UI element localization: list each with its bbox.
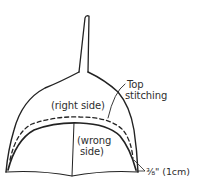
top-stitching-leader xyxy=(108,84,125,118)
wrong-side-label-line2: side) xyxy=(77,146,111,157)
center-seam-line xyxy=(72,123,74,176)
right-side-label: (right side) xyxy=(51,100,105,111)
hood-diagram xyxy=(0,0,202,187)
top-stitching-label: Top stitching xyxy=(125,79,167,101)
top-stitching-label-line2: stitching xyxy=(125,90,167,101)
top-stitching-label-line1: Top xyxy=(125,79,167,90)
seam-allowance-label: ⅜" (1cm) xyxy=(146,166,190,177)
wrong-side-label-line1: (wrong xyxy=(77,135,111,146)
wrong-side-label: (wrong side) xyxy=(77,135,111,157)
stem-outline xyxy=(79,16,89,72)
outer-shell-outline xyxy=(6,72,138,172)
